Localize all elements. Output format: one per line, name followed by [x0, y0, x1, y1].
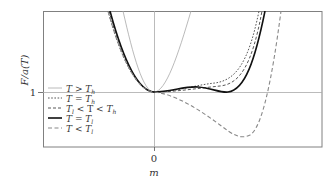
curve-t-equal-th: [108, 11, 259, 92]
x-tick-label-0: 0: [151, 153, 157, 164]
y-tick-label-1: 1: [30, 87, 36, 98]
y-axis-label: F/a(T): [19, 55, 30, 87]
legend: T > Th T = Th Tl < T < Th T = Tl T < Tl: [48, 84, 116, 135]
chart-svg: 1 0 m F/a(T) T > Th T = Th Tl < T < Th T…: [0, 0, 333, 178]
legend-label-t-below-tl: T < Tl: [66, 124, 93, 135]
curve-t-above-th: [123, 11, 191, 92]
x-axis-label: m: [149, 167, 158, 178]
curves: [108, 11, 281, 137]
curve-t-between: [109, 11, 262, 92]
